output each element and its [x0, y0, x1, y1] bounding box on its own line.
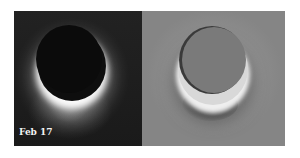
figure: Feb 17 — [14, 11, 285, 146]
enhanced-disk — [182, 27, 246, 93]
left-image-panel: Feb 17 — [14, 11, 142, 146]
date-label: Feb 17 — [19, 127, 53, 137]
occulted-disk — [36, 25, 102, 93]
right-image-panel — [142, 11, 285, 146]
